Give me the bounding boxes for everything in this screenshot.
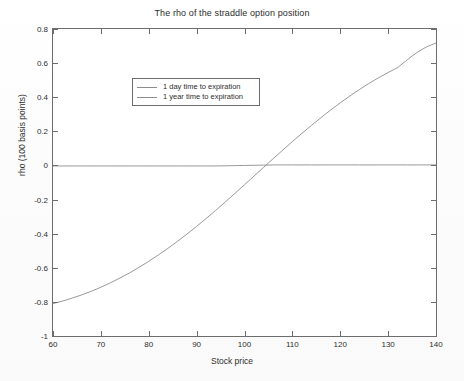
x-tick-label: 120	[334, 340, 347, 349]
axis-tick	[53, 63, 58, 64]
x-tick-label: 110	[286, 340, 299, 349]
legend-line-icon	[137, 87, 157, 88]
x-tick-label: 130	[381, 340, 394, 349]
series-line	[53, 165, 436, 166]
axis-tick	[101, 331, 102, 336]
y-tick-label: -0.2	[6, 195, 48, 204]
y-tick-label: -0.8	[6, 297, 48, 306]
axis-tick	[431, 302, 436, 303]
chart-figure: The rho of the straddle option position …	[0, 0, 464, 381]
legend-line-icon	[137, 97, 157, 98]
axis-tick	[197, 331, 198, 336]
y-tick-label: -1	[6, 332, 48, 341]
axis-tick	[436, 29, 437, 34]
axis-tick	[431, 200, 436, 201]
y-tick-label: 0	[6, 161, 48, 170]
axis-tick	[431, 268, 436, 269]
legend-item: 1 day time to expiration	[137, 82, 255, 92]
axis-tick	[431, 131, 436, 132]
axis-tick	[149, 29, 150, 34]
axis-tick	[340, 29, 341, 34]
y-tick-label: 0.2	[6, 127, 48, 136]
axis-tick	[292, 331, 293, 336]
axis-tick	[101, 29, 102, 34]
axis-tick	[197, 29, 198, 34]
axis-tick	[431, 97, 436, 98]
axis-tick	[245, 331, 246, 336]
page-title: The rho of the straddle option position	[0, 8, 464, 18]
axis-tick	[53, 234, 58, 235]
y-tick-label: -0.6	[6, 263, 48, 272]
chart-legend: 1 day time to expiration 1 year time to …	[132, 78, 260, 106]
x-tick-label: 140	[429, 340, 442, 349]
axis-tick	[388, 331, 389, 336]
y-tick-label: -0.4	[6, 229, 48, 238]
legend-item-label: 1 year time to expiration	[163, 92, 243, 102]
x-tick-label: 100	[238, 340, 251, 349]
axis-tick	[431, 165, 436, 166]
axis-tick	[149, 331, 150, 336]
y-axis-label: rho (100 basis points)	[17, 55, 27, 215]
axis-tick	[53, 165, 58, 166]
legend-item-label: 1 day time to expiration	[163, 82, 241, 92]
axis-tick	[431, 29, 436, 30]
x-axis-label: Stock price	[0, 356, 464, 366]
axis-tick	[292, 29, 293, 34]
axis-tick	[53, 97, 58, 98]
x-tick-label: 80	[144, 340, 153, 349]
plot-svg	[53, 29, 436, 336]
axis-tick	[53, 268, 58, 269]
axis-tick	[53, 200, 58, 201]
axis-tick	[245, 29, 246, 34]
legend-item: 1 year time to expiration	[137, 92, 255, 102]
axis-tick	[431, 234, 436, 235]
axis-tick	[53, 131, 58, 132]
plot-area: 1 day time to expiration 1 year time to …	[52, 28, 437, 337]
x-tick-label: 60	[49, 340, 58, 349]
y-tick-label: 0.4	[6, 93, 48, 102]
axis-tick	[53, 336, 58, 337]
axis-tick	[431, 336, 436, 337]
axis-tick	[431, 63, 436, 64]
y-tick-label: 0.6	[6, 59, 48, 68]
x-tick-label: 70	[96, 340, 105, 349]
y-tick-label: 0.8	[6, 25, 48, 34]
axis-tick	[436, 331, 437, 336]
axis-tick	[53, 302, 58, 303]
axis-tick	[340, 331, 341, 336]
x-tick-label: 90	[192, 340, 201, 349]
axis-tick	[388, 29, 389, 34]
axis-tick	[53, 29, 58, 30]
